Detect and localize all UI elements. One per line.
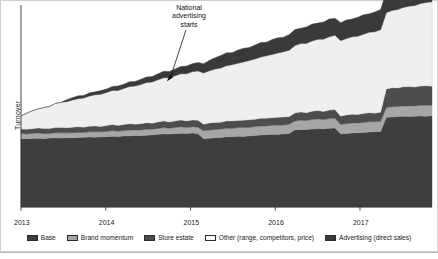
legend-swatch-icon (144, 235, 155, 241)
legend-swatch-icon (325, 235, 336, 241)
legend-item-store-estate[interactable]: Store estate (144, 234, 194, 241)
legend-swatch-icon (205, 235, 216, 241)
legend-swatch-icon (27, 235, 38, 241)
x-tick-label-2013: 2013 (14, 219, 30, 226)
x-tick-label-2014: 2014 (99, 219, 115, 226)
legend-item-advertising-direct-sales[interactable]: Advertising (direct sales) (325, 234, 411, 241)
legend-item-brand-momentum[interactable]: Brand momentum (67, 234, 133, 241)
annotation-line-2: advertising (158, 12, 220, 20)
legend-swatch-icon (67, 235, 78, 241)
stacked-area-svg (0, 0, 438, 216)
legend-label: Advertising (direct sales) (339, 234, 411, 241)
legend-label: Store estate (158, 234, 194, 241)
annotation-line-1: National (158, 4, 220, 12)
chart-screenshot: Turnover 20132014201520162017 Nationalad… (0, 0, 438, 259)
annotation-national-advertising: Nationaladvertisingstarts (158, 4, 220, 29)
x-tick-label-2016: 2016 (268, 219, 284, 226)
x-tick-label-2015: 2015 (183, 219, 199, 226)
legend-label: Other (range, competitors, price) (219, 234, 314, 241)
x-tick-label-2017: 2017 (353, 219, 369, 226)
bottom-divider (0, 252, 438, 253)
plot-area (0, 0, 438, 216)
legend-item-other-range-competitors-price[interactable]: Other (range, competitors, price) (205, 234, 314, 241)
legend-label: Brand momentum (81, 234, 133, 241)
chart-legend: BaseBrand momentumStore estateOther (ran… (0, 234, 438, 241)
legend-label: Base (41, 234, 56, 241)
legend-item-base[interactable]: Base (27, 234, 56, 241)
annotation-line-3: starts (158, 21, 220, 29)
